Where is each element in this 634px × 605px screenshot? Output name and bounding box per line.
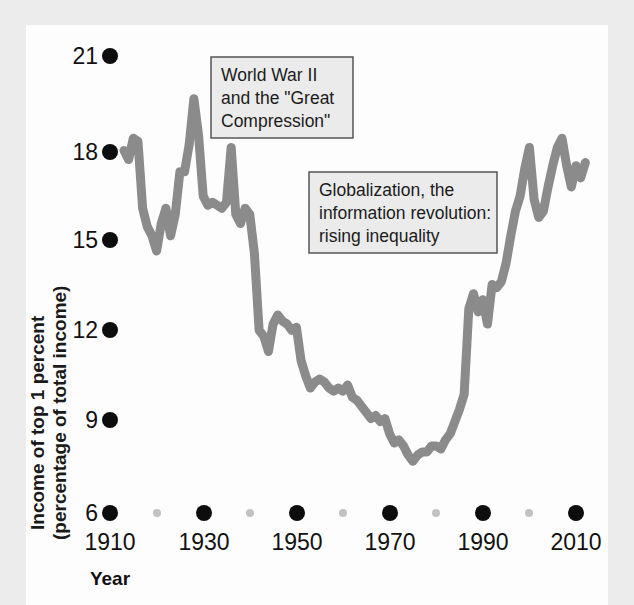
page-background: Income of top 1 percent (percentage of t… [0, 0, 634, 605]
x-tick-label-2010: 2010 [550, 529, 601, 555]
annotation-globalization-rising-inequality: Globalization, the information revolutio… [309, 172, 497, 253]
annotation-wwii-great-compression: World War II and the "Great Compression" [211, 57, 353, 138]
x-tick-dot-1920 [153, 509, 161, 517]
y-tick-dot-15 [102, 232, 118, 248]
y-axis-title: Income of top 1 percent (percentage of t… [27, 286, 70, 540]
annotation-2-line-1: Globalization, the [319, 180, 454, 200]
x-tick-dot-1970 [382, 505, 398, 521]
y-axis-ticks: 21 18 15 12 9 6 [72, 43, 118, 526]
y-tick-dot-9 [102, 412, 118, 428]
y-axis-title-line2: (percentage of total income) [49, 286, 70, 540]
annotation-1-line-3: Compression" [221, 111, 330, 131]
x-tick-dot-2010 [568, 505, 584, 521]
annotation-2-line-2: information revolution: [319, 203, 491, 223]
y-axis-title-line1: Income of top 1 percent [27, 315, 48, 530]
x-tick-label-1970: 1970 [364, 529, 415, 555]
income-inequality-chart: Income of top 1 percent (percentage of t… [0, 0, 634, 605]
x-tick-dot-1980 [432, 509, 440, 517]
x-tick-dot-1930 [196, 505, 212, 521]
x-tick-dot-1940 [246, 509, 254, 517]
annotation-2-line-3: rising inequality [319, 226, 440, 246]
annotation-1-line-1: World War II [221, 65, 317, 85]
x-tick-label-1910: 1910 [84, 529, 135, 555]
x-tick-dot-2000 [525, 509, 533, 517]
x-tick-label-1990: 1990 [457, 529, 508, 555]
x-axis-title: Year [90, 568, 131, 589]
chart-svg: Income of top 1 percent (percentage of t… [0, 0, 634, 605]
x-tick-dot-1960 [339, 509, 347, 517]
x-tick-dot-1990 [475, 505, 491, 521]
x-tick-label-1950: 1950 [271, 529, 322, 555]
y-tick-label-18: 18 [72, 139, 98, 165]
y-tick-dot-18 [102, 144, 118, 160]
x-tick-label-1930: 1930 [178, 529, 229, 555]
y-tick-label-21: 21 [72, 43, 98, 69]
y-tick-label-15: 15 [72, 227, 98, 253]
y-tick-label-6: 6 [85, 500, 98, 526]
y-tick-dot-6 [102, 505, 118, 521]
x-axis-tick-labels: 1910 1930 1950 1970 1990 2010 [84, 529, 601, 555]
y-tick-label-9: 9 [85, 407, 98, 433]
y-tick-label-12: 12 [72, 317, 98, 343]
series-line-top-1-percent [124, 99, 585, 462]
annotation-1-line-2: and the "Great [221, 88, 334, 108]
y-tick-dot-21 [102, 48, 118, 64]
x-tick-dot-1950 [289, 505, 305, 521]
y-tick-dot-12 [102, 322, 118, 338]
